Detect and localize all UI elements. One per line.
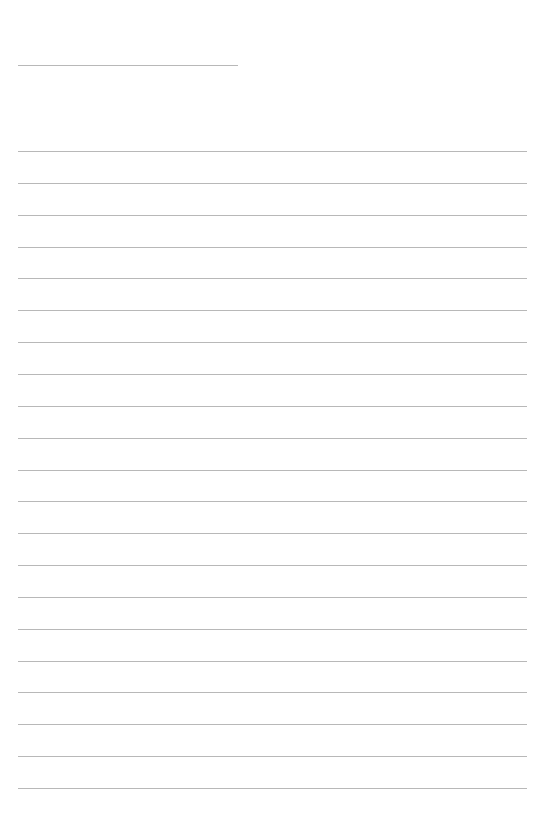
header-line — [18, 65, 238, 66]
ruled-line — [18, 278, 527, 279]
ruled-line — [18, 247, 527, 248]
ruled-line — [18, 692, 527, 693]
ruled-line — [18, 406, 527, 407]
ruled-line — [18, 661, 527, 662]
ruled-line — [18, 629, 527, 630]
ruled-line — [18, 215, 527, 216]
ruled-line — [18, 342, 527, 343]
ruled-line — [18, 374, 527, 375]
ruled-line — [18, 597, 527, 598]
ruled-line — [18, 565, 527, 566]
ruled-line — [18, 724, 527, 725]
ruled-line — [18, 533, 527, 534]
ruled-line — [18, 151, 527, 152]
ruled-line — [18, 501, 527, 502]
ruled-line — [18, 183, 527, 184]
ruled-line — [18, 470, 527, 471]
ruled-line — [18, 756, 527, 757]
ruled-line — [18, 310, 527, 311]
ruled-line — [18, 438, 527, 439]
ruled-line — [18, 788, 527, 789]
